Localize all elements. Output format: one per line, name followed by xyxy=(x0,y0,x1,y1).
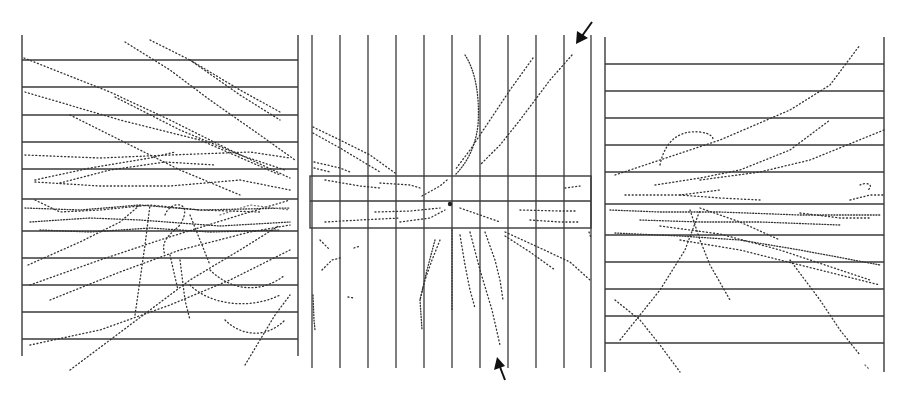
right-chamber-view xyxy=(605,37,884,372)
right-tracks xyxy=(610,45,884,372)
interaction-vertex xyxy=(448,202,452,206)
left-chamber-view xyxy=(22,35,298,370)
spark-chamber-figure xyxy=(0,0,905,395)
left-plates xyxy=(22,35,298,356)
upper-arrow-icon xyxy=(576,22,592,44)
figure-canvas xyxy=(0,0,905,395)
lower-arrow-icon xyxy=(494,357,505,380)
right-plates xyxy=(605,37,884,372)
center-chamber-view xyxy=(310,35,591,368)
left-tracks xyxy=(24,40,295,370)
